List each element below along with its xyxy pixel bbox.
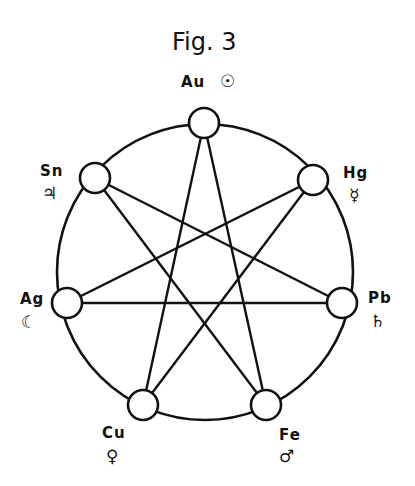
sun-icon: ☉: [220, 73, 235, 90]
node-fe: [251, 390, 281, 420]
label-sn: Sn: [40, 164, 63, 179]
label-au: Au: [181, 75, 205, 90]
label-fe: Fe: [279, 428, 301, 443]
moon-icon: ☾: [21, 314, 36, 331]
mars-icon: ♂: [279, 448, 294, 465]
mercury-icon: ☿: [349, 187, 359, 204]
node-au: [189, 108, 219, 138]
jupiter-icon: ♃: [42, 185, 57, 202]
edge-pb-sn: [95, 178, 342, 303]
heptagram-lines: [67, 123, 342, 405]
venus-icon: ♀: [106, 448, 118, 465]
label-cu: Cu: [102, 426, 126, 441]
node-hg: [298, 165, 328, 195]
label-hg: Hg: [343, 166, 368, 181]
node-ag: [52, 288, 82, 318]
node-pb: [327, 288, 357, 318]
node-sn: [80, 163, 110, 193]
edge-hg-ag: [67, 180, 313, 303]
label-ag: Ag: [20, 292, 44, 307]
figure-title: Fig. 3: [172, 30, 237, 54]
saturn-icon: ♄: [370, 313, 385, 330]
node-cu: [128, 390, 158, 420]
label-pb: Pb: [368, 291, 392, 306]
heptagram-diagram: [0, 0, 415, 486]
